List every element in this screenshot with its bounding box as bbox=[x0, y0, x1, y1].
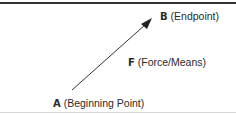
beginning-letter: A bbox=[53, 98, 61, 109]
endpoint-text: (Endpoint) bbox=[171, 10, 219, 22]
force-letter: F bbox=[128, 57, 135, 68]
endpoint-letter: B bbox=[160, 11, 168, 22]
beginning-text: (Beginning Point) bbox=[64, 97, 145, 109]
endpoint-label: B (Endpoint) bbox=[160, 10, 219, 23]
beginning-label: A (Beginning Point) bbox=[53, 97, 144, 110]
bottom-rule bbox=[0, 112, 236, 113]
force-label: F (Force/Means) bbox=[128, 56, 206, 69]
force-text: (Force/Means) bbox=[138, 56, 206, 68]
